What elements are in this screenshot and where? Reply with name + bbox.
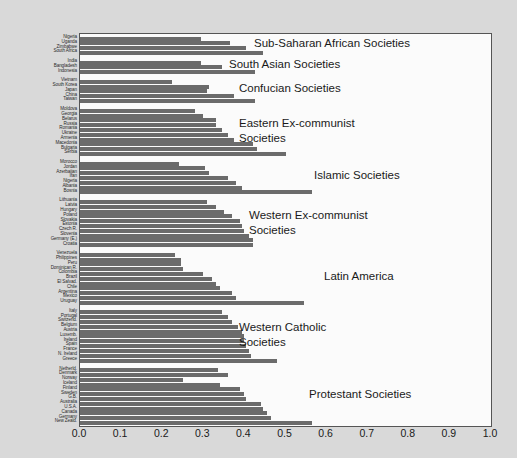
bar <box>80 200 207 204</box>
group-label: Confucian Societies <box>239 82 341 94</box>
bar <box>80 181 236 185</box>
bar <box>80 243 253 247</box>
bar <box>80 392 244 396</box>
bar <box>80 41 230 45</box>
bar <box>80 109 195 113</box>
group-label: Western Catholic <box>239 321 326 333</box>
category-label: Bosnia <box>64 189 77 194</box>
category-label: Croatia <box>63 242 77 247</box>
bar <box>80 142 253 146</box>
bar <box>80 411 267 415</box>
bar <box>80 70 255 74</box>
bar <box>80 214 232 218</box>
group-label: South Asian Societies <box>229 58 340 70</box>
bar <box>80 349 249 353</box>
group-label: Western Ex-communist <box>249 209 368 221</box>
x-tick-label: 0.2 <box>154 427 169 439</box>
group-label: Sub-Saharan African Societies <box>254 37 410 49</box>
group-label: Societies <box>239 336 286 348</box>
category-label: New Zeald. <box>55 419 77 424</box>
x-tick-label: 1.0 <box>483 427 498 439</box>
bar <box>80 229 244 233</box>
group-label: Latin America <box>324 270 394 282</box>
bar <box>80 94 234 98</box>
bar <box>80 315 228 319</box>
x-tick-label: 0.4 <box>236 427 251 439</box>
bar <box>80 354 251 358</box>
category-label: Greece <box>63 357 77 362</box>
bar <box>80 89 207 93</box>
bar <box>80 373 228 377</box>
bar <box>80 387 240 391</box>
bar <box>80 296 236 300</box>
category-label: South Africa <box>53 49 77 54</box>
group-label: Eastern Ex-communist <box>239 117 355 129</box>
bar <box>80 291 232 295</box>
bar <box>80 267 183 271</box>
bar <box>80 339 244 343</box>
bar <box>80 147 257 151</box>
bar <box>80 190 312 194</box>
chart-container: NigeriaUgandaZimbabweSouth AfricaIndiaBa… <box>0 0 517 458</box>
bar <box>80 359 277 363</box>
bar <box>80 51 263 55</box>
bar <box>80 65 222 69</box>
bar <box>80 219 240 223</box>
bar <box>80 133 228 137</box>
bar <box>80 99 255 103</box>
bar <box>80 123 216 127</box>
bar <box>80 238 253 242</box>
category-axis-labels: NigeriaUgandaZimbabweSouth AfricaIndiaBa… <box>6 33 77 425</box>
chart-frame: NigeriaUgandaZimbabweSouth AfricaIndiaBa… <box>6 6 511 452</box>
x-tick-label: 0.1 <box>113 427 128 439</box>
bar <box>80 416 271 420</box>
bar <box>80 80 172 84</box>
bar <box>80 118 216 122</box>
bar <box>80 166 205 170</box>
x-tick-label: 0.7 <box>359 427 374 439</box>
bar <box>80 224 242 228</box>
bar <box>80 402 261 406</box>
x-tick-label: 0.8 <box>400 427 415 439</box>
category-label: Taiwan <box>63 97 77 102</box>
bar <box>80 253 175 257</box>
category-label: Uruguay <box>60 299 77 304</box>
bar <box>80 128 222 132</box>
bar <box>80 310 222 314</box>
group-label: Protestant Societies <box>309 388 411 400</box>
bar <box>80 286 220 290</box>
bar <box>80 272 203 276</box>
bar <box>80 421 312 425</box>
bar <box>80 334 244 338</box>
bar <box>80 152 286 156</box>
bar <box>80 171 209 175</box>
bar <box>80 325 238 329</box>
bar <box>80 46 246 50</box>
bar <box>80 301 304 305</box>
group-label: Societies <box>239 132 286 144</box>
bar <box>80 262 181 266</box>
x-tick-label: 0.6 <box>318 427 333 439</box>
bar <box>80 176 228 180</box>
bar <box>80 277 212 281</box>
group-label: Islamic Societies <box>314 169 400 181</box>
bar <box>80 205 216 209</box>
x-tick-label: 0.9 <box>442 427 457 439</box>
bar <box>80 378 183 382</box>
bar <box>80 344 246 348</box>
bar <box>80 368 218 372</box>
x-tick-label: 0.5 <box>277 427 292 439</box>
category-label: Serbia <box>64 150 77 155</box>
x-tick-label: 0.3 <box>195 427 210 439</box>
x-tick-label: 0.0 <box>72 427 87 439</box>
group-label: Societies <box>249 224 296 236</box>
bar <box>80 397 246 401</box>
x-axis-ticks: 0.00.10.20.30.40.50.60.70.80.91.0 <box>79 427 492 445</box>
bar <box>80 320 232 324</box>
category-label: Indonesia <box>58 69 77 74</box>
